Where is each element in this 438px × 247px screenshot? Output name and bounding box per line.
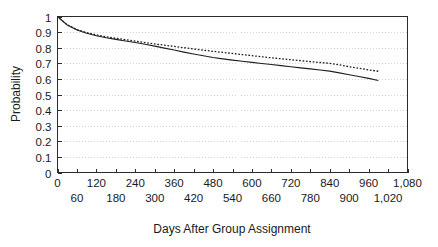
x-tick-label-bottom: 300 [145, 192, 164, 204]
x-tick-label-top: 240 [126, 177, 145, 189]
y-tick-label: 0.2 [36, 136, 52, 148]
gridlines-group [58, 33, 408, 158]
y-axis-ticks [58, 18, 62, 174]
plot-border [58, 17, 408, 173]
plot-frame [58, 17, 408, 173]
y-tick-label: 0.4 [36, 105, 53, 117]
y-axis-title: Probability [9, 66, 23, 122]
survival-curve-figure: 10.90.80.70.60.50.40.30.20.10 0120240360… [0, 0, 438, 247]
x-tick-label-bottom: 60 [71, 192, 84, 204]
x-tick-label-top: 360 [165, 177, 184, 189]
y-tick-label: 0.5 [36, 90, 52, 102]
x-tick-label-bottom: 420 [184, 192, 203, 204]
x-tick-label-bottom: 900 [340, 192, 359, 204]
y-tick-label: 0.6 [36, 74, 52, 86]
x-tick-label-bottom: 180 [106, 192, 125, 204]
x-tick-label-bottom: 540 [223, 192, 242, 204]
x-tick-label-bottom: 780 [301, 192, 320, 204]
x-axis-tick-labels-top: 01202403604806007208409601,080 [54, 177, 422, 189]
x-tick-label-top: 480 [203, 177, 222, 189]
x-tick-label-bottom: 660 [262, 192, 281, 204]
y-tick-label: 0.3 [36, 121, 52, 133]
x-axis-ticks [59, 169, 409, 173]
y-tick-label: 0.9 [36, 27, 52, 39]
chart-canvas: 10.90.80.70.60.50.40.30.20.10 0120240360… [0, 0, 438, 247]
x-tick-label-top: 120 [87, 177, 106, 189]
x-tick-label-bottom: 1,020 [374, 192, 403, 204]
y-tick-label: 0.1 [36, 152, 52, 164]
x-tick-label-top: 720 [281, 177, 300, 189]
x-axis-tick-labels-bottom: 601803004205406607809001,020 [71, 192, 403, 204]
x-tick-label-top: 840 [320, 177, 339, 189]
series-dotted-curve [58, 17, 379, 72]
y-tick-label: 0 [45, 168, 51, 180]
x-tick-label-top: 1,080 [393, 177, 422, 189]
y-tick-label: 0.8 [36, 43, 52, 55]
x-tick-label-top: 600 [242, 177, 261, 189]
x-tick-label-top: 960 [359, 177, 378, 189]
y-tick-label: 0.7 [36, 58, 52, 70]
x-tick-label-top: 0 [54, 177, 60, 189]
y-tick-label: 1 [45, 12, 51, 24]
y-axis-tick-labels: 10.90.80.70.60.50.40.30.20.10 [36, 12, 53, 180]
x-axis-title: Days After Group Assignment [153, 222, 311, 236]
